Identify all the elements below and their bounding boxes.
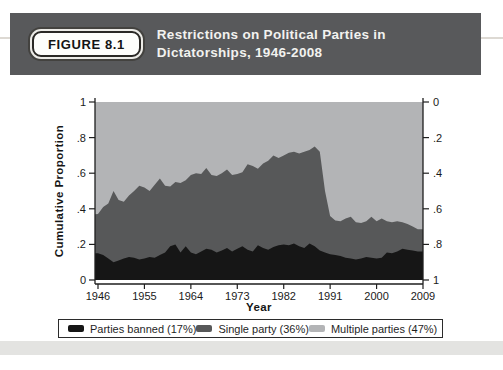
legend-label: Multiple parties (47%) [331, 323, 437, 335]
figure-title: Restrictions on Political Parties in Dic… [157, 26, 386, 62]
x-tick-label: 1982 [271, 290, 295, 302]
y-left-tick-label: .6 [77, 167, 86, 179]
x-tick-label: 1955 [132, 290, 156, 302]
figure-page: { "header": { "badge_label": "FIGURE 8.1… [0, 0, 503, 370]
legend-entry: Multiple parties (47%) [309, 323, 437, 335]
chart-areas [95, 102, 423, 280]
stacked-area-chart: 1.8.6.4.200.2.4.6.8119461955196419731982… [0, 85, 503, 319]
page-bottom-band [0, 341, 503, 355]
y-right-tick-label: 1 [433, 274, 439, 286]
y-right-tick-label: .8 [433, 238, 442, 250]
legend-entry: Single party (36%) [196, 323, 309, 335]
y-left-tick-label: 1 [80, 96, 86, 108]
x-tick-label: 1964 [179, 290, 203, 302]
legend-swatch-icon [309, 325, 325, 332]
x-tick-label: 1946 [86, 290, 110, 302]
figure-number-badge: FIGURE 8.1 [32, 31, 141, 57]
y-right-tick-label: .6 [433, 203, 442, 215]
legend-entry: Parties banned (17%) [68, 323, 196, 335]
y-left-tick-label: .2 [77, 238, 86, 250]
y-axis-title: Cumulative Proportion [53, 125, 65, 257]
figure-header-banner: FIGURE 8.1 Restrictions on Political Par… [10, 13, 481, 75]
legend-label: Single party (36%) [218, 323, 309, 335]
legend-swatch-icon [196, 325, 212, 332]
y-right-tick-label: .4 [433, 167, 442, 179]
x-tick-label: 2009 [411, 290, 435, 302]
x-tick-label: 2000 [364, 290, 388, 302]
legend-swatch-icon [68, 325, 84, 332]
y-left-tick-label: .4 [77, 203, 86, 215]
y-right-tick-label: 0 [433, 96, 439, 108]
figure-title-line2: Dictatorships, 1946-2008 [157, 44, 386, 62]
x-tick-label: 1991 [318, 290, 342, 302]
legend-label: Parties banned (17%) [90, 323, 196, 335]
figure-title-line1: Restrictions on Political Parties in [157, 26, 386, 44]
y-left-tick-label: 0 [80, 274, 86, 286]
y-left-tick-label: .8 [77, 132, 86, 144]
y-right-tick-label: .2 [433, 132, 442, 144]
x-axis-title: Year [246, 301, 272, 313]
chart-legend: Parties banned (17%)Single party (36%)Mu… [58, 319, 443, 338]
